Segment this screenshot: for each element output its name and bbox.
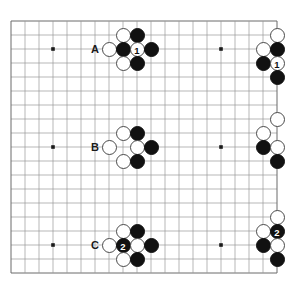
black-stone[interactable] xyxy=(144,238,159,253)
star-point xyxy=(219,145,223,149)
black-stone[interactable] xyxy=(130,224,145,239)
white-stone[interactable] xyxy=(270,140,285,155)
black-stone[interactable] xyxy=(116,42,131,57)
white-stone[interactable] xyxy=(256,126,271,141)
white-stone[interactable] xyxy=(270,210,285,225)
white-stone[interactable] xyxy=(116,28,131,43)
black-stone[interactable] xyxy=(130,154,145,169)
white-stone[interactable] xyxy=(256,42,271,57)
black-stone[interactable] xyxy=(130,126,145,141)
move-marker-1-white-stone[interactable]: 1 xyxy=(130,42,145,57)
white-stone[interactable] xyxy=(116,252,131,267)
white-stone[interactable] xyxy=(130,238,145,253)
black-stone[interactable] xyxy=(130,56,145,71)
star-point xyxy=(51,145,55,149)
star-point xyxy=(51,243,55,247)
white-stone[interactable] xyxy=(116,126,131,141)
white-stone[interactable] xyxy=(270,112,285,127)
black-stone[interactable] xyxy=(256,140,271,155)
white-stone[interactable] xyxy=(116,56,131,71)
black-stone[interactable] xyxy=(270,42,285,57)
move-marker-2-black-stone[interactable]: 2 xyxy=(270,224,285,239)
move-marker-1-white-stone[interactable]: 1 xyxy=(270,56,285,71)
black-stone[interactable] xyxy=(270,252,285,267)
white-stone[interactable] xyxy=(130,140,145,155)
black-stone[interactable] xyxy=(130,28,145,43)
white-stone[interactable] xyxy=(116,154,131,169)
white-stone[interactable] xyxy=(116,224,131,239)
star-point xyxy=(219,243,223,247)
white-stone[interactable] xyxy=(256,224,271,239)
row-label-c: C xyxy=(88,240,102,251)
white-stone[interactable] xyxy=(270,28,285,43)
black-stone[interactable] xyxy=(144,42,159,57)
move-marker-2-black-stone[interactable]: 2 xyxy=(116,238,131,253)
white-stone[interactable] xyxy=(102,42,117,57)
go-diagram: ABC1122 xyxy=(0,0,287,293)
star-point xyxy=(51,47,55,51)
black-stone[interactable] xyxy=(256,238,271,253)
star-point xyxy=(219,47,223,51)
black-stone[interactable] xyxy=(256,56,271,71)
row-label-b: B xyxy=(88,142,102,153)
black-stone[interactable] xyxy=(144,140,159,155)
black-stone[interactable] xyxy=(270,70,285,85)
white-stone[interactable] xyxy=(270,238,285,253)
black-stone[interactable] xyxy=(130,252,145,267)
white-stone[interactable] xyxy=(102,140,117,155)
white-stone[interactable] xyxy=(102,238,117,253)
black-stone[interactable] xyxy=(270,154,285,169)
row-label-a: A xyxy=(88,44,102,55)
